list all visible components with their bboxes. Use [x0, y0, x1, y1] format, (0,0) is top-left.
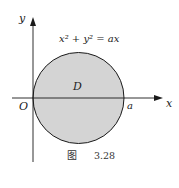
y-axis-label: y [18, 12, 26, 25]
region-label: D [72, 80, 82, 93]
y-axis-arrow-icon [30, 17, 36, 26]
figure-canvas: y x O a D x² + y² = ax 图 3.28 [0, 0, 179, 188]
equation-label: x² + y² = ax [59, 33, 120, 44]
caption-number: 3.28 [94, 150, 115, 161]
point-a-label: a [127, 100, 133, 111]
x-axis-label: x [166, 97, 173, 110]
x-axis-arrow-icon [154, 95, 163, 101]
origin-label: O [19, 100, 28, 113]
caption-prefix: 图 [67, 150, 77, 161]
